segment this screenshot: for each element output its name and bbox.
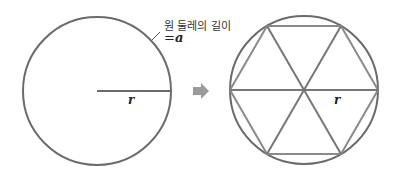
annotation-leader-line [152,32,160,40]
hexagon-spokes [230,26,378,154]
equals-sign: = [164,30,175,45]
right-arrow-icon [193,83,209,99]
circumference-equation: =a [164,30,183,45]
circumference-variable: a [175,30,183,45]
left-radius-label: r [128,93,134,107]
right-radius-label: r [334,93,340,107]
